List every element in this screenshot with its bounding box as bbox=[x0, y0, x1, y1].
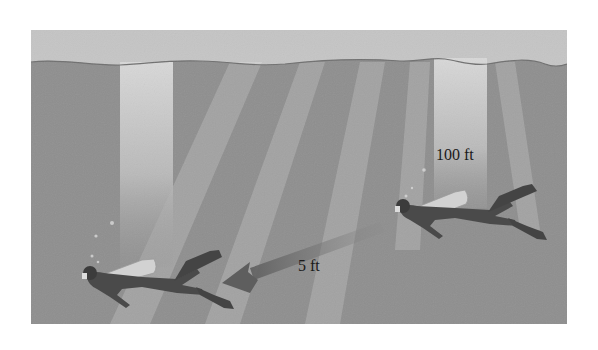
depth-label: 100 ft bbox=[436, 147, 474, 163]
distance-label: 5 ft bbox=[298, 258, 320, 274]
scene-illustration bbox=[0, 0, 598, 350]
